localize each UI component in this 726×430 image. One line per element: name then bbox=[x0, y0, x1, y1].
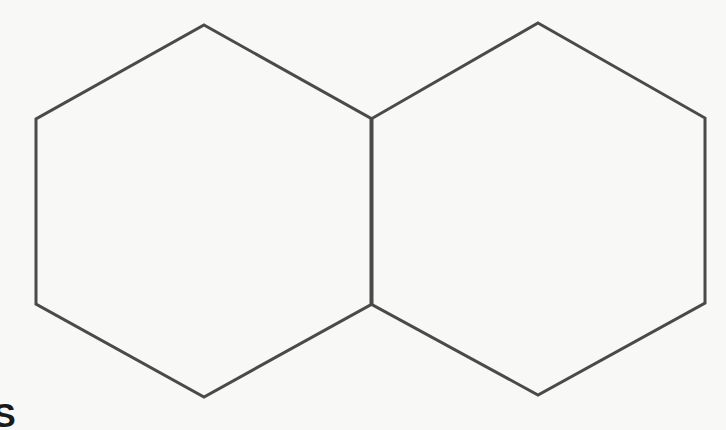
corner-label: S bbox=[0, 398, 16, 430]
left-hexagon bbox=[36, 25, 372, 397]
fused-hexagons-diagram bbox=[0, 0, 726, 430]
right-hexagon bbox=[371, 23, 705, 395]
diagram-canvas: S bbox=[0, 0, 726, 430]
